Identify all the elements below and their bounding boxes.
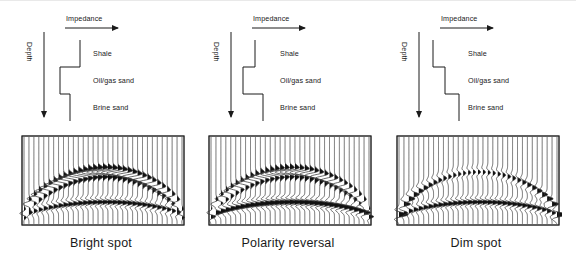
impedance-axis-label-0: Impedance — [66, 14, 102, 23]
wiggle-trace — [280, 137, 299, 224]
wiggle-trace — [237, 137, 254, 224]
panel-dim-spot: Impedance Depth Shale Oil/gas sand Brine… — [383, 0, 569, 267]
layer-label-oilgas-2: Oil/gas sand — [468, 76, 509, 85]
wiggle-trace — [426, 137, 434, 224]
impedance-step-curve-0 — [60, 40, 80, 121]
wiggle-trace — [510, 137, 518, 224]
layer-label-shale-1: Shale — [280, 49, 299, 58]
seismic-section-2 — [394, 133, 562, 228]
panel-caption-0: Bright spot — [8, 236, 194, 250]
wiggle-trace — [20, 137, 27, 224]
impedance-diagram-1: Impedance Depth Shale Oil/gas sand Brine… — [195, 4, 381, 128]
panel-caption-1: Polarity reversal — [195, 236, 381, 250]
impedance-axis-label-2: Impedance — [441, 14, 477, 23]
impedance-axis-label-1: Impedance — [253, 14, 289, 23]
depth-axis-label-1: Depth — [212, 42, 221, 62]
layer-label-brine-0: Brine sand — [93, 103, 128, 112]
seismic-amplitude-anomaly-figure: Impedance Depth Shale Oil/gas sand Brine… — [0, 0, 576, 267]
panel-bright-spot: Impedance Depth Shale Oil/gas sand Brine… — [8, 0, 194, 267]
wiggle-trace — [242, 137, 259, 224]
wiggle-fill — [29, 196, 33, 215]
impedance-step-curve-2 — [433, 40, 459, 121]
panel-polarity-reversal: Impedance Depth Shale Oil/gas sand Brine… — [195, 0, 381, 267]
wiggle-trace — [421, 137, 428, 224]
depth-axis-label-0: Depth — [25, 42, 34, 62]
wiggle-trace — [553, 137, 563, 224]
seismic-svg-0 — [19, 133, 187, 228]
wiggle-trace — [275, 137, 294, 224]
wiggle-trace — [58, 137, 74, 224]
seismic-section-0 — [19, 133, 187, 228]
layer-label-brine-2: Brine sand — [468, 103, 503, 112]
seismic-svg-1 — [206, 133, 374, 228]
wiggle-trace — [285, 137, 304, 224]
layer-label-oilgas-1: Oil/gas sand — [280, 76, 321, 85]
layer-label-shale-0: Shale — [93, 49, 112, 58]
wiggle-trace — [535, 137, 542, 224]
wiggle-trace — [102, 137, 119, 224]
seismic-svg-2 — [394, 133, 562, 228]
layer-label-brine-1: Brine sand — [280, 103, 315, 112]
wiggle-trace — [207, 137, 216, 224]
impedance-step-curve-1 — [243, 40, 263, 121]
depth-axis-label-2: Depth — [400, 42, 409, 62]
panel-caption-2: Dim spot — [383, 236, 569, 250]
seismic-section-1 — [206, 133, 374, 228]
layer-label-oilgas-0: Oil/gas sand — [93, 76, 134, 85]
layer-label-shale-2: Shale — [468, 49, 487, 58]
impedance-diagram-2: Impedance Depth Shale Oil/gas sand Brine… — [383, 4, 569, 128]
wiggle-trace — [310, 137, 328, 224]
impedance-diagram-0: Impedance Depth Shale Oil/gas sand Brine… — [8, 4, 194, 128]
